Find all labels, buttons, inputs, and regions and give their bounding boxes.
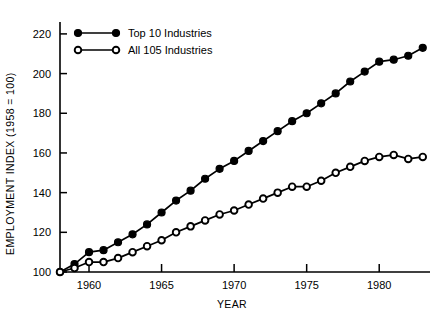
data-point-marker (274, 189, 281, 196)
data-point-marker (231, 207, 238, 214)
data-point-marker (231, 157, 238, 164)
x-tick-label: 1980 (367, 279, 391, 291)
data-point-marker (86, 249, 93, 256)
data-point-marker (86, 259, 93, 266)
data-point-marker (158, 237, 165, 244)
data-point-marker (129, 249, 136, 256)
data-point-marker (202, 175, 209, 182)
data-point-marker (405, 156, 412, 163)
data-point-marker (115, 255, 122, 262)
data-point-marker (144, 221, 151, 228)
data-point-marker (187, 223, 194, 230)
data-point-marker (158, 209, 165, 216)
data-point-marker (202, 217, 209, 224)
y-tick-label: 200 (33, 68, 51, 80)
y-axis-ticks: 100120140160180200220 (33, 28, 67, 278)
x-axis-title: YEAR (217, 298, 247, 310)
y-tick-label: 120 (33, 226, 51, 238)
legend-label: Top 10 Industries (128, 27, 212, 39)
y-tick-label: 100 (33, 266, 51, 278)
data-point-marker (361, 68, 368, 75)
y-tick-label: 180 (33, 107, 51, 119)
chart-canvas: 100120140160180200220 196019651970197519… (0, 0, 436, 321)
data-point-marker (260, 195, 267, 202)
data-point-marker (115, 239, 122, 246)
legend-filled-circle-icon (75, 30, 82, 37)
y-tick-label: 160 (33, 147, 51, 159)
series-polyline (60, 155, 423, 272)
data-point-marker (347, 78, 354, 85)
data-point-marker (376, 154, 383, 161)
data-point-marker (303, 183, 310, 190)
data-point-marker (289, 183, 296, 190)
data-point-marker (376, 58, 383, 65)
data-point-marker (303, 110, 310, 117)
data-point-marker (144, 243, 151, 250)
data-point-marker (289, 118, 296, 125)
data-point-marker (100, 259, 107, 266)
legend-open-circle-icon (75, 47, 82, 54)
plot-axes (60, 22, 430, 272)
data-point-marker (405, 52, 412, 59)
x-tick-label: 1970 (222, 279, 246, 291)
y-axis-title: EMPLOYMENT INDEX (1958 = 100) (4, 72, 16, 255)
data-point-marker (173, 229, 180, 236)
legend-open-circle-icon (113, 47, 120, 54)
data-point-marker (57, 269, 64, 276)
data-point-marker (390, 152, 397, 159)
data-point-marker (216, 211, 223, 218)
data-point-marker (216, 165, 223, 172)
x-tick-label: 1975 (294, 279, 318, 291)
legend-item-2: All 105 Industries (75, 44, 213, 56)
data-point-marker (419, 154, 426, 161)
data-point-marker (332, 90, 339, 97)
data-point-marker (245, 201, 252, 208)
chart-legend: Top 10 IndustriesAll 105 Industries (75, 27, 213, 56)
data-point-marker (100, 247, 107, 254)
data-point-marker (318, 100, 325, 107)
data-point-marker (390, 56, 397, 63)
data-point-marker (245, 147, 252, 154)
y-tick-label: 140 (33, 187, 51, 199)
employment-index-chart: 100120140160180200220 196019651970197519… (0, 0, 436, 321)
data-point-marker (274, 128, 281, 135)
legend-filled-circle-icon (113, 30, 120, 37)
x-tick-label: 1965 (149, 279, 173, 291)
data-point-marker (318, 177, 325, 184)
data-point-marker (71, 265, 78, 272)
y-tick-label: 220 (33, 28, 51, 40)
data-point-marker (332, 169, 339, 176)
data-point-marker (260, 138, 267, 145)
legend-item-1: Top 10 Industries (75, 27, 213, 39)
data-point-marker (419, 44, 426, 51)
data-point-marker (187, 187, 194, 194)
x-axis-ticks: 19601965197019751980 (77, 264, 392, 291)
x-tick-label: 1960 (77, 279, 101, 291)
data-series-layer (57, 44, 427, 275)
legend-label: All 105 Industries (128, 44, 213, 56)
data-point-marker (173, 197, 180, 204)
data-point-marker (347, 164, 354, 171)
data-point-marker (361, 158, 368, 165)
series-2 (57, 152, 426, 276)
data-point-marker (129, 231, 136, 238)
